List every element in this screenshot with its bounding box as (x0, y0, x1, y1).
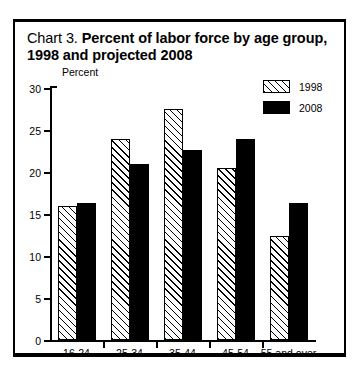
y-axis-tick-label: 10 (29, 251, 41, 263)
legend-item-1998: 1998 (263, 78, 345, 95)
bar-2008-16-24 (77, 203, 96, 340)
y-axis-tick-label: 15 (29, 209, 41, 221)
solid-black-swatch (263, 101, 290, 114)
legend-label: 1998 (299, 81, 322, 93)
x-axis-separator-tick (209, 342, 211, 348)
legend-label: 2008 (299, 102, 322, 114)
x-axis-separator-tick (156, 342, 158, 348)
x-axis-label-55-and-over: 55 and over (261, 347, 316, 359)
chart-title-main: Percent of labor force by age group, (78, 30, 327, 46)
chart-title-prefix: Chart 3. (27, 30, 78, 46)
y-axis-tick-label: 5 (35, 293, 41, 305)
bar-1998-45-54 (217, 168, 236, 340)
bar-2008-55-and-over (289, 203, 308, 340)
hatched-diagonal-swatch (263, 80, 290, 93)
y-axis-tick-label: 20 (29, 167, 41, 179)
x-axis-label-35-44: 35-44 (169, 347, 196, 359)
page-title: Chart 3. Percent of labor force by age g… (27, 30, 337, 64)
bar-1998-25-34 (111, 139, 130, 340)
legend-item-2008: 2008 (263, 99, 345, 116)
y-axis-tick-label: 0 (35, 335, 41, 347)
y-axis-tick: 0 (44, 340, 51, 342)
x-axis-label-16-24: 16-24 (63, 347, 90, 359)
chart-legend: 19982008 (263, 78, 345, 120)
bar-2008-35-44 (183, 150, 202, 340)
x-axis-line (50, 340, 316, 342)
chart-title-subline: 1998 and projected 2008 (27, 47, 192, 63)
x-axis-label-25-34: 25-34 (116, 347, 143, 359)
plot-area (50, 88, 315, 340)
y-axis-title: Percent (62, 66, 98, 78)
bar-1998-16-24 (58, 206, 77, 340)
x-axis-separator-tick (103, 342, 105, 348)
bar-2008-25-34 (130, 164, 149, 340)
bar-2008-45-54 (236, 139, 255, 340)
y-axis-tick-label: 25 (29, 125, 41, 137)
y-axis-tick-label: 30 (29, 83, 41, 95)
bar-1998-35-44 (164, 109, 183, 340)
bar-1998-55-and-over (270, 236, 289, 340)
chart-figure: Chart 3. Percent of labor force by age g… (13, 19, 346, 357)
x-axis-label-45-54: 45-54 (222, 347, 249, 359)
